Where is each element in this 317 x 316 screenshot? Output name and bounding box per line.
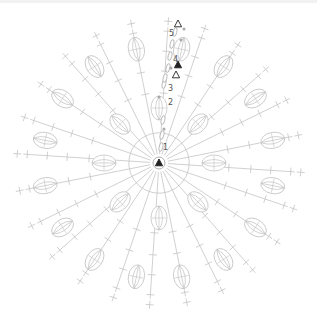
row-label-3: 3	[168, 84, 173, 93]
stitch-spoke	[163, 171, 225, 294]
row-label-5: 5	[169, 29, 174, 38]
puff-stitch	[106, 188, 134, 216]
stitch-spoke	[146, 172, 161, 309]
puff-stitch	[184, 188, 212, 216]
puff-stitch	[32, 175, 59, 195]
puff-stitch	[202, 155, 226, 171]
stitch-spoke	[93, 32, 155, 155]
puff-stitch	[126, 36, 146, 63]
puff-stitch	[210, 52, 237, 81]
stitch-spoke	[168, 161, 305, 176]
puff-stitch	[241, 214, 270, 241]
puff-stitch	[210, 245, 237, 274]
puff-stitch	[81, 52, 108, 81]
row5-fasten-marker-icon	[174, 20, 181, 27]
crochet-chart: 12345	[0, 0, 317, 316]
row4-fasten-marker-icon	[172, 71, 179, 78]
stitch-spoke	[62, 53, 153, 156]
puff-stitch	[126, 263, 146, 290]
row-label-4: 4	[173, 55, 178, 64]
puff-stitch	[184, 110, 212, 138]
row-label-1: 1	[163, 143, 168, 152]
puff-stitch	[241, 85, 270, 112]
puff-stitch	[171, 263, 191, 290]
row-label-2: 2	[168, 98, 173, 107]
puff-stitch	[106, 110, 134, 138]
puff-stitch	[81, 245, 108, 274]
puff-stitch	[259, 130, 286, 150]
stitch-spoke	[165, 170, 256, 273]
puff-stitch	[92, 155, 116, 171]
puff-stitch	[48, 85, 77, 112]
puff-stitch	[151, 206, 167, 230]
stitch-spoke	[49, 169, 152, 260]
puff-stitch	[32, 130, 59, 150]
stitch-spoke	[166, 66, 269, 157]
stitch-spoke	[167, 97, 290, 159]
stitch-spoke	[28, 167, 151, 229]
puff-stitch	[48, 214, 77, 241]
stitch-spoke	[13, 150, 150, 165]
puff-stitch	[259, 175, 286, 195]
